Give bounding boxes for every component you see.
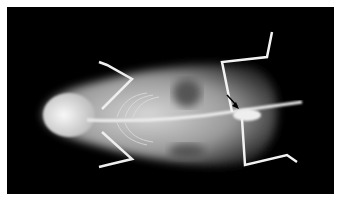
xray-image (7, 7, 334, 194)
xray-illustration (7, 7, 334, 194)
